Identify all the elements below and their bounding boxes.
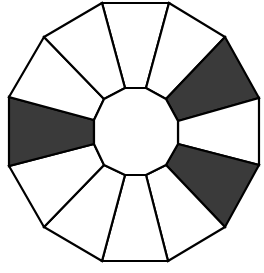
inner-dodecagon [94, 88, 178, 175]
segmented-dodecagon-diagram [0, 0, 264, 273]
